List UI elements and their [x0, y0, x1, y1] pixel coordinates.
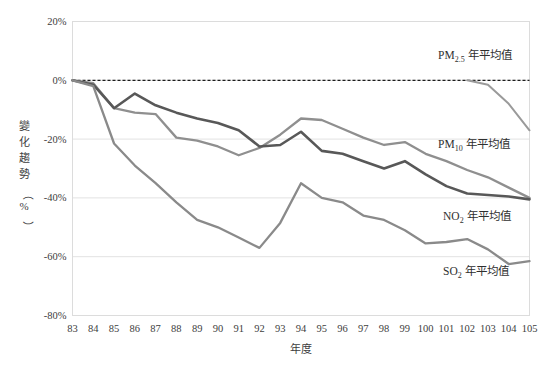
series-label-pm2-5: PM2.5 年平均值	[438, 48, 513, 64]
x-tick-88: 88	[171, 323, 182, 334]
y-tick--60: -60%	[44, 251, 67, 262]
series-label-pm10: PM10 年平均值	[438, 137, 511, 153]
y-tick--80: -80%	[44, 310, 67, 321]
data-series-lines	[73, 80, 530, 264]
y-tick-20: 20%	[47, 16, 67, 27]
x-tick-98: 98	[379, 323, 390, 334]
x-tick-97: 97	[358, 323, 369, 334]
x-tick-100: 100	[418, 323, 434, 334]
x-tick-91: 91	[233, 323, 244, 334]
y-axis-title-char: 變	[19, 119, 30, 132]
x-tick-92: 92	[254, 323, 265, 334]
x-tick-105: 105	[522, 323, 538, 334]
x-tick-90: 90	[213, 323, 224, 334]
series-label-so2: SO2 年平均值	[443, 264, 510, 280]
x-tick-102: 102	[459, 323, 475, 334]
y-axis-title-char: 勢	[19, 167, 30, 180]
y-tick--20: -20%	[44, 134, 67, 145]
y-axis-title-char: ）	[22, 221, 34, 232]
x-tick-104: 104	[501, 323, 518, 334]
chart-container: 20%0%-20%-40%-60%-80% 838485868788899091…	[0, 0, 543, 369]
y-axis-tick-labels: 20%0%-20%-40%-60%-80%	[44, 16, 67, 321]
series-label-no2: NO2 年平均值	[443, 209, 512, 225]
y-tick--40: -40%	[44, 192, 67, 203]
y-axis-title-char: （	[22, 189, 34, 200]
y-axis-title-char: %	[19, 200, 28, 212]
x-tick-89: 89	[192, 323, 203, 334]
x-tick-87: 87	[150, 323, 161, 334]
series-line-pm2-5	[467, 80, 529, 130]
line-chart: 20%0%-20%-40%-60%-80% 838485868788899091…	[0, 0, 543, 369]
x-tick-93: 93	[275, 323, 286, 334]
y-axis-title: 變化趨勢（%）	[19, 119, 35, 232]
x-axis-title: 年度	[290, 342, 312, 355]
series-line-no2	[73, 80, 530, 199]
x-tick-83: 83	[67, 323, 78, 334]
y-tick-0: 0%	[53, 75, 67, 86]
x-tick-103: 103	[480, 323, 496, 334]
series-line-so2	[73, 80, 530, 264]
x-axis-tick-labels: 8384858687888990919293949596979899100101…	[67, 323, 537, 334]
y-axis-title-char: 趨	[19, 151, 30, 164]
x-tick-94: 94	[296, 323, 307, 334]
y-axis-title-char: 化	[19, 135, 30, 148]
x-tick-86: 86	[130, 323, 141, 334]
x-tick-95: 95	[317, 323, 328, 334]
x-tick-99: 99	[400, 323, 411, 334]
x-tick-85: 85	[109, 323, 120, 334]
x-tick-96: 96	[337, 323, 348, 334]
x-tick-101: 101	[439, 323, 455, 334]
x-tick-84: 84	[88, 323, 99, 334]
